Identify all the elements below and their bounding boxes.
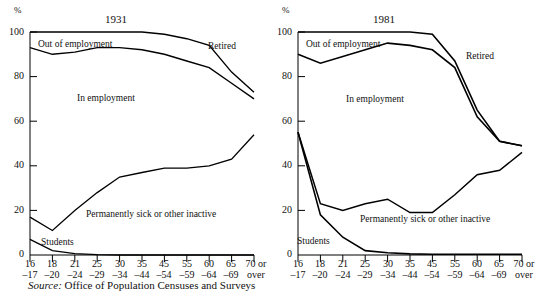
y-tick-label-20-right: 20 [268,205,292,215]
y-tick-label-40-right: 40 [268,160,292,170]
chart-panel-1931: % 1931 100 80 60 40 20 0 [0,0,266,272]
series-line-inactive-right [298,132,522,212]
band-label-inactive-right: Permanently sick or other inactive [360,214,490,224]
plot-area-1931 [28,26,260,262]
source-label: Source: [28,279,62,291]
y-tick-label-20-left: 20 [0,205,24,215]
source-value: Office of Population Censuses and Survey… [65,279,256,291]
y-tick-label-40-left: 40 [0,160,24,170]
y-tick-label-60-left: 60 [0,116,24,126]
y-axis-unit-label-left: % [14,6,22,15]
y-tick-label-80-left: 80 [0,71,24,81]
band-label-retired-left: Retired [208,41,236,51]
band-label-out-of-employment-right: Out of employment [306,39,380,49]
y-axis-unit-label-right: % [282,6,290,15]
y-tick-label-60-right: 60 [268,116,292,126]
chart-title-1981: 1981 [324,14,444,25]
band-label-out-of-employment-left: Out of employment [38,39,112,49]
band-label-retired-right: Retired [466,51,494,61]
y-tick-label-80-right: 80 [268,71,292,81]
plot-svg-1981 [296,26,528,262]
band-label-in-employment-left: In employment [77,93,135,103]
series-line-students-right [298,132,522,254]
chart-panel-1981: % 1981 100 80 60 40 20 0 [266,0,533,272]
x-tick-label-10-right: 70 orover [504,258,539,280]
band-label-students-right: Students [297,236,330,246]
band-label-inactive-left: Permanently sick or other inactive [86,209,216,219]
plot-area-1981 [296,26,528,262]
y-tick-label-100-left: 100 [0,27,24,37]
chart-title-1931: 1931 [56,14,176,25]
band-label-in-employment-right: In employment [346,94,404,104]
y-tick-label-100-right: 100 [268,27,292,37]
plot-svg-1931 [28,26,260,262]
band-label-students-left: Students [41,237,74,247]
source-note: Source: Office of Population Censuses an… [28,279,255,291]
series-line-employment-left [30,48,254,99]
